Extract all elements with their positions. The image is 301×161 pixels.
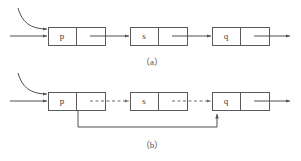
link-a-curve [18, 8, 47, 29]
panel-a: p s q （a） [10, 8, 290, 67]
panel-a-caption: （a） [141, 57, 163, 67]
node-b-p-label: p [60, 96, 65, 106]
link-b-curve [18, 73, 47, 94]
panel-b-caption: （b） [141, 140, 164, 150]
link-b-feedback [78, 110, 217, 127]
node-a-s-label: s [142, 31, 146, 41]
diagram-canvas: p s q （a） [0, 0, 301, 161]
panel-b: p s q （b） [10, 73, 290, 150]
node-b-q-label: q [224, 96, 229, 106]
node-a-q-label: q [224, 31, 229, 41]
node-a-p-label: p [60, 31, 65, 41]
node-b-s-label: s [142, 96, 146, 106]
